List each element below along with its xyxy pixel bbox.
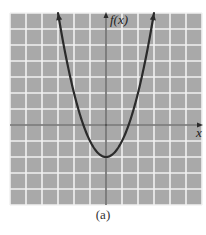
x-axis-label: x [195, 125, 202, 140]
figure-caption: (a) [0, 207, 206, 223]
y-axis-label: f(x) [110, 12, 128, 27]
parabola-chart: f(x) x [0, 0, 206, 235]
figure: f(x) x (a) [0, 0, 206, 235]
